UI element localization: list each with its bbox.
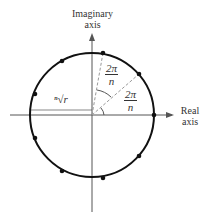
imaginary-axis-label: Imaginaryaxis [70, 8, 115, 30]
angle-arc-1 [97, 90, 111, 97]
roots-of-unity-diagram: Imaginaryaxis Realaxis ⁿ√r 2πn 2πn [0, 0, 206, 220]
angle-label-1: 2πn [105, 62, 118, 87]
dashed-radius-1 [92, 53, 103, 115]
angle-arc-2 [101, 108, 104, 115]
real-axis-arrow-icon [166, 112, 174, 118]
angle-label-2: 2πn [124, 88, 137, 113]
real-axis-label: Realaxis [176, 105, 204, 127]
imaginary-axis-arrow-icon [89, 33, 95, 41]
radius-label: ⁿ√r [54, 93, 68, 105]
